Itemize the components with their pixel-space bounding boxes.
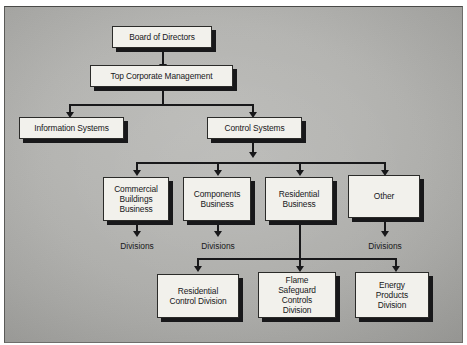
node-board-of-directors[interactable]: Board of Directors [112, 26, 212, 48]
label-divisions-components: Divisions [190, 241, 246, 251]
node-flame-safeguard-controls-division[interactable]: Flame Safeguard Controls Division [258, 272, 336, 318]
node-residential-control-division[interactable]: Residential Control Division [157, 274, 239, 318]
arrow-divisions-other [381, 231, 389, 237]
bus-level4 [136, 162, 386, 164]
node-top-corporate-management[interactable]: Top Corporate Management [90, 65, 233, 87]
node-control-systems[interactable]: Control Systems [207, 117, 302, 139]
node-label: Board of Directors [126, 32, 198, 42]
node-label: Components Business [191, 189, 244, 209]
arrow-residential-business [296, 170, 304, 176]
node-energy-products-division[interactable]: Energy Products Division [355, 272, 429, 318]
arrow-divisions-components [214, 231, 222, 237]
arrow-components-business [214, 170, 222, 176]
node-label: Residential Business [276, 189, 322, 209]
node-commercial-buildings-business[interactable]: Commercial Buildings Business [103, 177, 169, 221]
node-label: Energy Products Division [373, 280, 411, 311]
node-other[interactable]: Other [348, 175, 420, 218]
node-label: Information Systems [31, 123, 111, 133]
arrow-commercial-buildings-business [133, 170, 141, 176]
org-chart-canvas: Board of Directors Top Corporate Managem… [4, 6, 463, 343]
node-residential-business[interactable]: Residential Business [265, 177, 333, 221]
arrow-control-systems-bus [249, 152, 257, 158]
connector-top-management-drop [162, 89, 164, 105]
label-divisions-commercial: Divisions [109, 241, 165, 251]
arrow-residential-control-division [194, 266, 202, 272]
node-label: Commercial Buildings Business [111, 184, 161, 215]
node-label: Control Systems [222, 123, 288, 133]
node-label: Other [371, 191, 397, 201]
connector-board-to-top-management [162, 50, 164, 65]
node-components-business[interactable]: Components Business [183, 177, 251, 221]
bus-level6 [197, 258, 397, 260]
node-label: Flame Safeguard Controls Division [275, 275, 319, 316]
arrow-divisions-commercial [133, 231, 141, 237]
connector-residential-business-drop [299, 219, 301, 259]
node-label: Top Corporate Management [108, 71, 216, 81]
bus-level3 [69, 104, 254, 106]
node-information-systems[interactable]: Information Systems [19, 117, 124, 139]
label-divisions-other: Divisions [357, 241, 413, 251]
node-label: Residential Control Division [166, 286, 229, 306]
